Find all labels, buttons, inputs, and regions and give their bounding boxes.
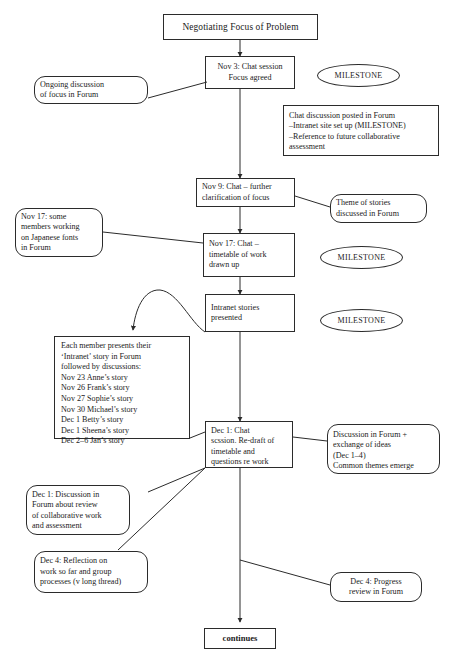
node-dec1-discussion-review: Dec 1: Discussion in Forum about review … <box>26 485 130 535</box>
node-continues: continues <box>204 628 276 649</box>
node-dec1-chat: Dec 1: Chat scssion. Re-draft of timetab… <box>205 421 293 468</box>
node-ongoing-discussion: Ongoing discussion of focus in Forum <box>34 76 148 104</box>
edge-dec1-to-discussion <box>293 437 327 441</box>
edge-japanese-to-nov17 <box>103 232 203 243</box>
node-nov3-chat: Nov 3: Chat session Focus agreed <box>205 56 295 89</box>
node-title-box: Negotiating Focus of Problem <box>163 14 318 40</box>
flowchart-canvas: Negotiating Focus of Problem Nov 3: Chat… <box>0 0 451 662</box>
node-nov17-chat: Nov 17: Chat – timetable of work drawn u… <box>203 233 295 277</box>
node-intranet-stories: Intranet stories presented <box>205 294 295 332</box>
node-discussion-exchange: Discussion in Forum + exchange of ideas … <box>327 424 440 474</box>
node-chat-posted-forum: Chat discussion posted in Forum –Intrane… <box>283 105 439 156</box>
node-nov17-japanese-fonts: Nov 17: some members working on Japanese… <box>15 208 103 257</box>
node-dec4-reflection: Dec 4: Reflection on work so far and gro… <box>34 551 148 593</box>
edge-nov9-to-theme <box>295 196 330 207</box>
edge-ongoing-to-nov3 <box>148 82 207 98</box>
edge-member-stories-to-dec1 <box>190 432 205 438</box>
milestone-badge-1: MILESTONE <box>317 64 400 87</box>
node-theme-of-stories: Theme of stories discussed in Forum <box>330 194 427 223</box>
node-member-stories-list: Each member presents their ‘Intranet’ st… <box>54 336 190 439</box>
edge-intranet-to-member-stories <box>133 290 205 332</box>
edge-dec1-to-dec4reflection <box>118 468 205 550</box>
node-dec4-progress-review: Dec 4: Progress review in Forum <box>330 572 422 602</box>
milestone-badge-2: MILESTONE <box>320 246 403 269</box>
edge-dec1-to-dec1discussion <box>148 468 205 492</box>
node-nov9-chat: Nov 9: Chat – further clarification of f… <box>196 178 295 207</box>
edge-dec1-to-dec4progress <box>240 560 330 585</box>
milestone-badge-3: MILESTONE <box>320 309 403 332</box>
